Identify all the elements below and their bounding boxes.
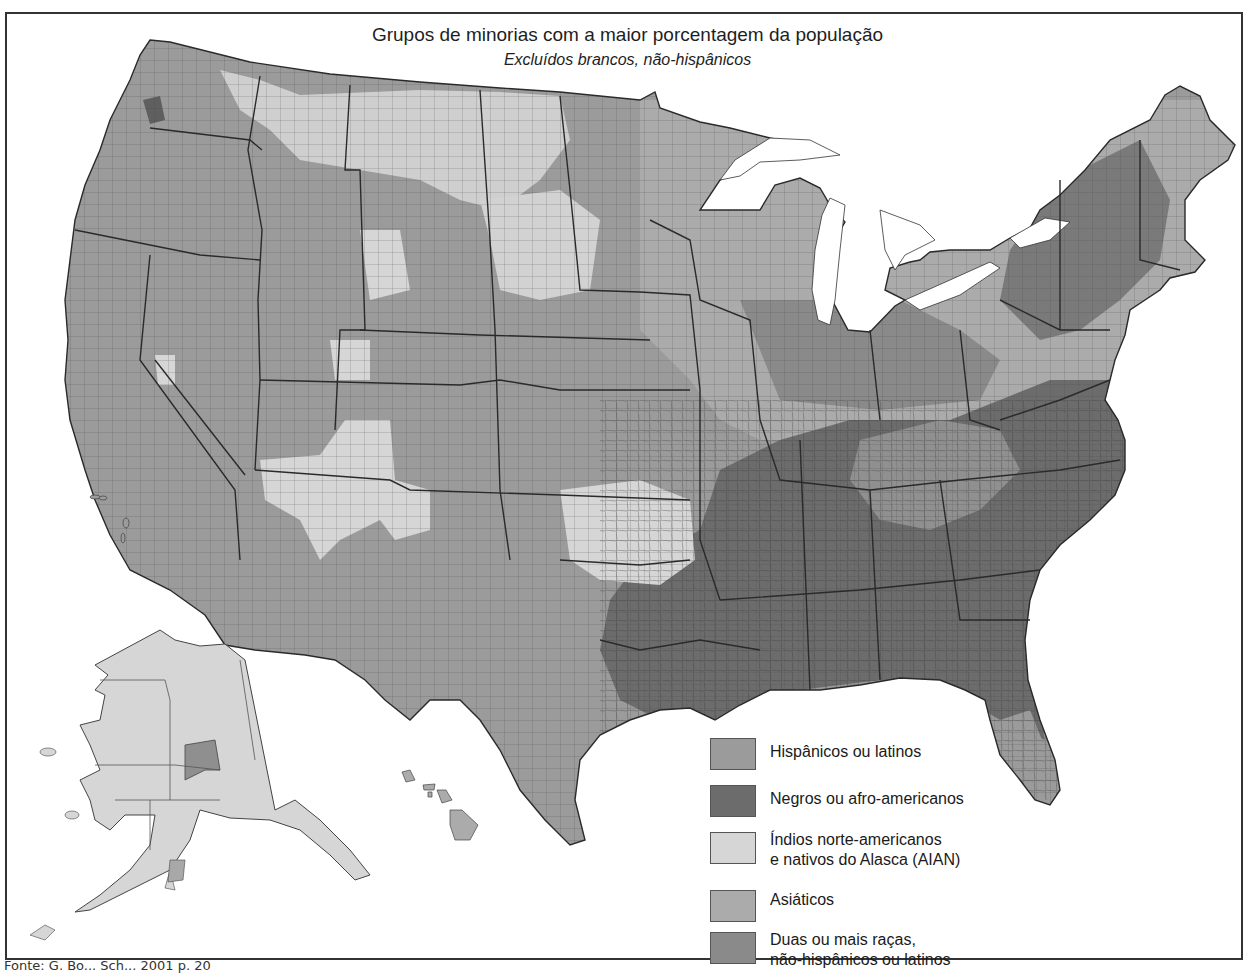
source-caption: Fonte: G. Bo... Sch... 2001 p. 20 [4,958,211,973]
legend: Hispânicos ou latinos Negros ou afro-ame… [708,736,1038,977]
legend-item-asian: Asiáticos [708,888,1038,930]
legend-label: Duas ou mais raças,não-hispânicos ou lat… [770,930,951,970]
legend-label: Hispânicos ou latinos [770,742,921,762]
map-title: Grupos de minorias com a maior porcentag… [0,24,1255,46]
legend-label: Negros ou afro-americanos [770,789,964,809]
legend-item-two-or-more: Duas ou mais raças,não-hispânicos ou lat… [708,930,1038,977]
hawaii [402,770,478,840]
legend-item-hispanic: Hispânicos ou latinos [708,736,1038,783]
map-subtitle: Excluídos brancos, não-hispânicos [0,51,1255,69]
legend-swatch-asian [710,890,756,922]
alaska [30,630,370,940]
legend-label: Asiáticos [770,890,834,910]
legend-swatch-two-or-more [710,932,756,964]
legend-item-black: Negros ou afro-americanos [708,783,1038,830]
legend-swatch-black [710,785,756,817]
legend-swatch-aian [710,832,756,864]
legend-label: Índios norte-americanose nativos do Alas… [770,830,960,870]
legend-swatch-hispanic [710,738,756,770]
legend-item-aian: Índios norte-americanose nativos do Alas… [708,830,1038,888]
